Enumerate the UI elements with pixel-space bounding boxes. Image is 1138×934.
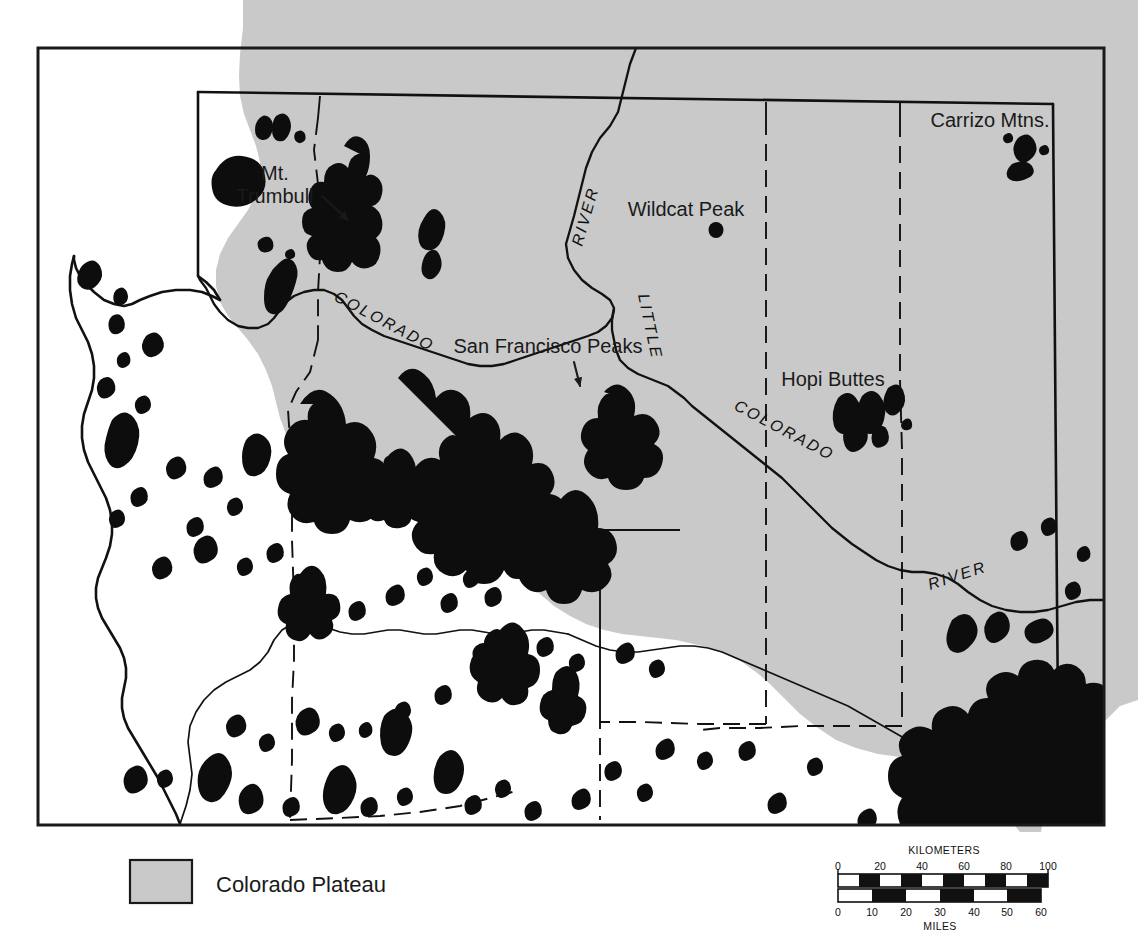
volcanic-field-south-w xyxy=(697,751,713,770)
navajo-county-line-south xyxy=(600,722,766,820)
volcanic-field-south-f xyxy=(380,708,412,756)
volcanic-field-south-l xyxy=(323,765,357,814)
volcanic-field-sf-south2 xyxy=(540,666,587,734)
scale-bar-km-seg-3 xyxy=(943,874,964,887)
volcanic-field-aubrey-j xyxy=(386,584,405,605)
label-carrizo-mtns: Carrizo Mtns. xyxy=(931,109,1050,131)
map-figure: Mt. Trumbull San Francisco Peaks Wildcat… xyxy=(0,0,1138,934)
volcanic-field-aubrey-l xyxy=(440,593,457,613)
scale-tick-mi-20: 20 xyxy=(900,906,912,918)
volcanic-field-shivwits-m xyxy=(186,517,203,537)
volcanic-field-south-u xyxy=(637,783,653,802)
map-canvas: Mt. Trumbull San Francisco Peaks Wildcat… xyxy=(0,0,1138,934)
scale-bar-km-seg-4 xyxy=(985,874,1006,887)
volcanic-field-aubrey-k xyxy=(417,567,433,586)
scale-bar-mi-seg-1 xyxy=(872,889,906,902)
scale-bar-km-seg-5 xyxy=(1027,874,1048,887)
volcanic-field-south-x xyxy=(738,741,755,761)
scale-bar-title-miles: MILES xyxy=(923,920,957,932)
legend-swatch-colorado-plateau xyxy=(130,860,192,903)
scale-tick-mi-10: 10 xyxy=(866,906,878,918)
volcanic-field-shivwits-h xyxy=(104,412,139,468)
label-mt-trumbull-line1: Mt. xyxy=(261,162,289,184)
volcanic-field-south-n xyxy=(397,787,413,806)
volcanic-field-aubrey-c xyxy=(204,466,223,487)
volcanic-field-south-z xyxy=(807,757,823,776)
volcanic-field-mog-g xyxy=(434,685,451,705)
volcanic-field-aubrey-f xyxy=(237,557,253,576)
volcanic-field-south-i xyxy=(198,753,232,802)
scale-tick-km-60: 60 xyxy=(958,860,970,872)
scale-tick-km-40: 40 xyxy=(916,860,928,872)
volcanic-field-shivwits-i xyxy=(166,456,186,479)
scale-tick-km-20: 20 xyxy=(874,860,886,872)
volcanic-field-aubrey-g xyxy=(266,543,283,563)
volcanic-field-south-k xyxy=(282,797,299,817)
volcanic-field-south-h xyxy=(157,769,173,788)
volcanic-field-south-m xyxy=(360,797,377,817)
volcanic-field-south-e xyxy=(359,722,373,738)
volcanic-field-south-c xyxy=(296,707,320,735)
volcanic-field-shivwits-l xyxy=(152,556,172,579)
volcanic-field-mog-e xyxy=(616,642,635,663)
volcanic-field-shivwits-d xyxy=(142,332,164,357)
scale-tick-km-80: 80 xyxy=(1000,860,1012,872)
western-cliffs-line xyxy=(70,256,180,824)
scale-bar-mi-seg-2 xyxy=(940,889,974,902)
volcanic-field-south-v xyxy=(656,738,675,759)
volcanic-field-shivwits-a xyxy=(77,260,102,289)
volcanic-field-sf-south xyxy=(470,622,540,705)
volcanic-field-aubrey-d xyxy=(227,497,243,516)
label-san-francisco-peaks: San Francisco Peaks xyxy=(454,335,643,357)
wildcat-peak-marker xyxy=(709,222,724,238)
volcanic-field-south-o xyxy=(434,750,464,794)
scale-tick-mi-30: 30 xyxy=(934,906,946,918)
volcanic-field-south-t xyxy=(604,761,621,781)
volcanic-field-shivwits-j xyxy=(130,487,147,507)
volcanic-field-aubrey-b xyxy=(242,433,271,476)
scale-tick-mi-0: 0 xyxy=(835,906,841,918)
volcanic-field-mog-c xyxy=(536,637,553,657)
volcanic-field-south-s xyxy=(572,788,591,809)
volcanic-field-shivwits-f xyxy=(97,377,116,399)
scale-tick-mi-40: 40 xyxy=(968,906,980,918)
volcanic-field-south-a xyxy=(226,714,246,737)
label-hopi-buttes: Hopi Buttes xyxy=(781,368,884,390)
scale-bar-km-seg-1 xyxy=(859,874,880,887)
map-legend: Colorado Plateau xyxy=(130,860,386,903)
scale-bar-mi-seg-3 xyxy=(1007,889,1041,902)
label-mt-trumbull-line2: Trumbull xyxy=(236,185,313,207)
volcanic-field-aubrey-e xyxy=(194,535,218,563)
volcanic-field-south-q xyxy=(495,779,511,798)
label-wildcat-peak: Wildcat Peak xyxy=(628,198,746,220)
volcanic-field-mog-f xyxy=(649,659,665,678)
scale-bar: KILOMETERS 0 20 40 60 80 100 0 10 xyxy=(835,844,1057,932)
volcanic-field-aubrey-n xyxy=(484,587,501,607)
scale-tick-mi-60: 60 xyxy=(1035,906,1047,918)
volcanic-field-se-corner-a xyxy=(858,808,877,829)
volcanic-field-shivwits-c xyxy=(108,314,124,334)
legend-label-colorado-plateau: Colorado Plateau xyxy=(216,872,386,897)
scale-bar-title-kilometers: KILOMETERS xyxy=(908,844,980,856)
scale-bar-km-seg-2 xyxy=(901,874,922,887)
volcanic-field-shivwits-g xyxy=(135,395,151,414)
volcanic-field-shivwits-e xyxy=(117,352,131,368)
volcanic-field-south-g xyxy=(124,765,148,793)
volcanic-field-south-d xyxy=(329,723,345,742)
volcanic-field-south-j xyxy=(239,784,264,814)
volcanic-field-aubrey-h xyxy=(278,566,341,641)
volcanic-field-mog-d xyxy=(569,653,585,672)
volcanic-field-south-y xyxy=(768,792,787,813)
volcanic-field-south-p xyxy=(464,795,481,815)
volcanic-field-aubrey-i xyxy=(348,601,365,621)
volcanic-field-shivwits-b xyxy=(113,287,128,305)
scale-tick-mi-50: 50 xyxy=(1001,906,1013,918)
volcanic-field-south-r xyxy=(524,801,541,821)
volcanic-field-south-b xyxy=(259,733,275,752)
